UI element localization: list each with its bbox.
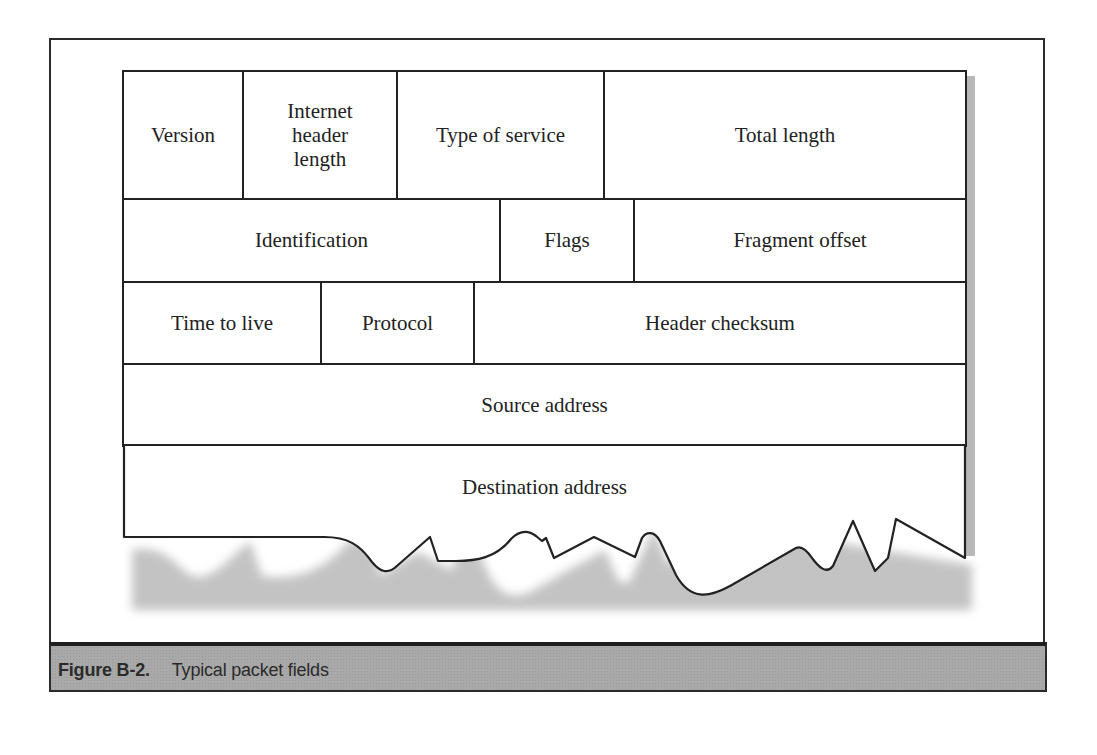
figure-caption: Figure B-2.Typical packet fields [58, 660, 329, 681]
caption-text: Typical packet fields [172, 660, 329, 680]
figure-number: Figure B-2. [58, 660, 150, 680]
field-label: Destination address [462, 475, 627, 499]
field-destination-address: Destination address [124, 475, 965, 500]
